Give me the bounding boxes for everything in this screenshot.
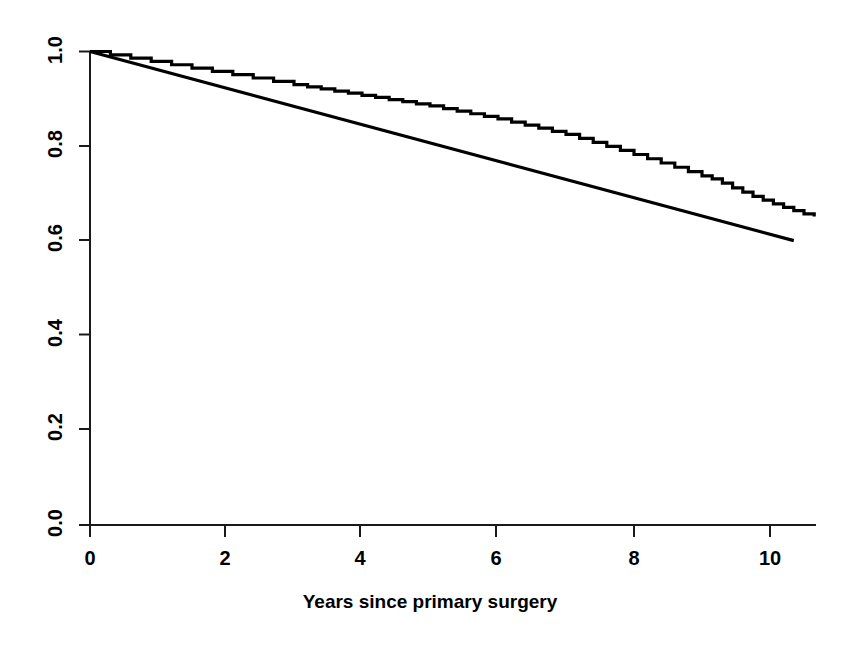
y-axis-ticks xyxy=(79,52,90,526)
x-axis-ticks xyxy=(90,525,770,537)
y-tick-label-0.4: 0.4 xyxy=(45,310,65,356)
y-tick-label-1.0: 1.0 xyxy=(45,27,65,73)
x-tick-label-2: 2 xyxy=(205,548,245,568)
series-kaplan-meier-curve xyxy=(90,52,814,217)
x-tick-label-6: 6 xyxy=(476,548,516,568)
x-tick-label-4: 4 xyxy=(340,548,380,568)
x-tick-label-8: 8 xyxy=(614,548,654,568)
x-tick-label-10: 10 xyxy=(750,548,790,568)
x-axis-title: Years since primary surgery xyxy=(230,592,630,611)
plot-area xyxy=(0,0,857,649)
y-tick-label-0.0: 0.0 xyxy=(45,500,65,546)
y-tick-label-0.2: 0.2 xyxy=(45,404,65,450)
series-expected-survival-line xyxy=(90,52,794,241)
y-tick-label-0.8: 0.8 xyxy=(45,121,65,167)
survival-chart: 1.0 0.8 0.6 0.4 0.2 0.0 0 2 4 6 8 10 Yea… xyxy=(0,0,857,649)
x-tick-label-0: 0 xyxy=(70,548,110,568)
y-tick-label-0.6: 0.6 xyxy=(45,215,65,261)
